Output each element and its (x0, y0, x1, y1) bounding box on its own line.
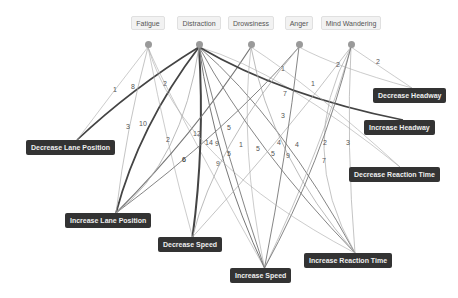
source-port-dot[interactable] (296, 41, 303, 48)
edge-weight-label: 5 (227, 150, 231, 157)
source-port-dot[interactable] (145, 41, 152, 48)
edge-weight-label: 2 (166, 136, 170, 143)
target-node-increase-lane-position[interactable]: Increase Lane Position (65, 213, 151, 228)
source-port-dot[interactable] (348, 41, 355, 48)
target-node-increase-speed[interactable]: Increase Speed (230, 268, 291, 283)
edge-mind_wandering-to-increase_reaction_time (324, 47, 355, 253)
edge-distraction-to-decrease_reaction_time (199, 47, 400, 167)
edge-weight-label: 7 (322, 157, 326, 164)
edge-weight-label: 4 (277, 139, 281, 146)
edge-distraction-to-increase_speed (199, 47, 265, 268)
edge-distraction-to-increase_speed (199, 47, 265, 268)
edge-weight-label: 6 (182, 156, 186, 163)
edge-weight-label: 1 (239, 141, 243, 148)
edge-weight-label: 5 (227, 124, 231, 131)
edge-anger-to-decrease_headway (299, 47, 412, 88)
target-node-decrease-speed[interactable]: Decrease Speed (158, 237, 222, 252)
source-port-dot[interactable] (248, 41, 255, 48)
target-node-decrease-headway[interactable]: Decrease Headway (373, 88, 446, 103)
edge-fatigue-to-decrease_lane_position (77, 47, 148, 140)
source-node-fatigue[interactable]: Fatigue (131, 16, 164, 30)
edge-anger-to-increase_lane_position (116, 47, 299, 213)
target-node-increase-reaction-time[interactable]: Increase Reaction Time (304, 253, 392, 268)
edge-weight-label: 2 (376, 58, 380, 65)
edge-weight-label: 9 (286, 152, 290, 159)
source-node-anger[interactable]: Anger (285, 16, 314, 30)
edge-weight-label: 9 (216, 160, 220, 167)
edge-distraction-to-decrease_lane_position (77, 47, 199, 140)
edge-distraction-to-increase_reaction_time (199, 47, 355, 253)
edge-weight-label: 5 (271, 150, 275, 157)
edge-weight-label: 8 (131, 83, 135, 90)
causal-network-diagram: 81103221412173955915549423722166 Fatigue… (0, 0, 458, 298)
edge-weight-label: 3 (126, 123, 130, 130)
edge-weight-label: 1 (113, 86, 117, 93)
edge-mind_wandering-to-increase_reaction_time (349, 47, 355, 253)
target-node-decrease-lane-position[interactable]: Decrease Lane Position (26, 140, 115, 155)
edge-weight-label: 3 (281, 112, 285, 119)
source-node-mind-wandering[interactable]: Mind Wandering (321, 16, 382, 30)
edge-distraction-to-increase_reaction_time (199, 47, 355, 253)
edge-weight-label: 2 (336, 61, 340, 68)
source-port-dot[interactable] (196, 41, 203, 48)
target-node-decrease-reaction-time[interactable]: Decrease Reaction Time (349, 167, 440, 182)
edge-weight-label: 10 (139, 120, 147, 127)
edge-weight-label: 4 (295, 141, 299, 148)
edge-mind_wandering-to-decrease_headway (351, 47, 412, 88)
edge-weight-label: 7 (283, 90, 287, 97)
source-node-drowsiness[interactable]: Drowsiness (228, 16, 274, 30)
edge-weight-label: 5 (256, 145, 260, 152)
edge-weight-label: 3 (346, 139, 350, 146)
target-node-increase-headway[interactable]: Increase Headway (364, 120, 435, 135)
edge-weight-label: 1 (311, 80, 315, 87)
edge-weight-label: 2 (323, 139, 327, 146)
source-node-distraction[interactable]: Distraction (177, 16, 220, 30)
edge-weight-label: 9 (215, 140, 219, 147)
edge-fatigue-to-increase_lane_position (116, 47, 148, 213)
